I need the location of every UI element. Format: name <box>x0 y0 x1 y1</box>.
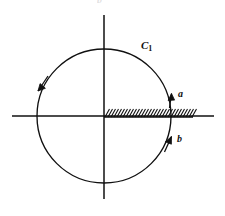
top-faint-axis-label: b <box>97 0 102 5</box>
contour-label-subscript: 1 <box>148 44 152 53</box>
contour-diagram-svg <box>0 0 225 216</box>
left-arc-arrow-icon <box>38 76 48 91</box>
lower-right-arc-arrow-icon <box>165 137 172 153</box>
contour-label-c1: C1 <box>141 40 152 53</box>
arrow-label-b: b <box>177 134 182 144</box>
arrow-label-a: a <box>178 89 183 99</box>
upper-right-arc-arrow-icon <box>168 94 175 109</box>
figure-canvas: b C1 a b <box>0 0 225 216</box>
